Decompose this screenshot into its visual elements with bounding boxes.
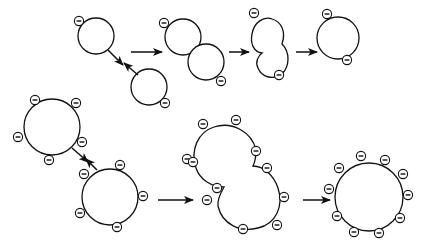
negative-charge-icon (251, 146, 260, 155)
negative-charge-icon (356, 151, 365, 160)
negative-charge-icon (138, 191, 147, 200)
negative-charge-icon (322, 9, 331, 18)
negative-charge-icon (249, 8, 258, 17)
vesicle-fused (317, 17, 359, 59)
negative-charge-icon (44, 155, 53, 164)
negative-charge-icon (403, 190, 412, 199)
vesicle-contact (188, 44, 224, 80)
vesicle-approach (82, 169, 138, 225)
approach-arrow-top-a-icon (108, 50, 123, 65)
negative-charge-icon (324, 184, 333, 193)
negative-charge-icon (395, 213, 404, 222)
vesicles-layer (24, 17, 403, 231)
negative-charge-icon (334, 163, 343, 172)
negative-charge-icon (262, 163, 271, 172)
negative-charge-icon (342, 55, 351, 64)
negative-charge-icon (202, 195, 211, 204)
negative-charge-icon (212, 183, 221, 192)
negative-charge-icon (238, 224, 247, 233)
negative-charge-icon (79, 169, 88, 178)
fusing-vesicle-large (194, 125, 280, 229)
negative-charge-icon (160, 98, 169, 107)
negative-charge-icon (349, 227, 358, 236)
vesicle-fused (335, 163, 403, 231)
negative-charge-icon (159, 18, 168, 27)
negative-charge-icon (231, 115, 240, 124)
negative-charge-icon (13, 132, 22, 141)
negative-charge-icon (380, 155, 389, 164)
vesicle-fusion-diagram (0, 0, 421, 244)
approach-arrow-bottom-b-icon (86, 159, 97, 170)
negative-charge-icon (279, 192, 288, 201)
negative-charge-icon (74, 16, 83, 25)
negative-charge-icon (75, 208, 84, 217)
negative-charge-icon (198, 119, 207, 128)
negative-charge-icon (272, 220, 281, 229)
negative-charge-icon (77, 137, 86, 146)
negative-charge-icon (332, 211, 341, 220)
fusing-vesicle-small (251, 18, 288, 77)
negative-charge-icon (188, 157, 197, 166)
negative-charge-icon (398, 169, 407, 178)
approach-arrow-bottom-a-icon (72, 148, 88, 162)
negative-charge-icon (115, 160, 124, 169)
negative-charge-icon (274, 70, 283, 79)
negative-charge-icon (112, 222, 121, 231)
vesicle-approach (24, 99, 80, 155)
negative-charge-icon (216, 76, 225, 85)
approach-arrow-top-b-icon (124, 63, 138, 75)
negative-charge-icon (374, 228, 383, 237)
negative-charge-icon (71, 98, 80, 107)
negative-charge-icon (30, 95, 39, 104)
